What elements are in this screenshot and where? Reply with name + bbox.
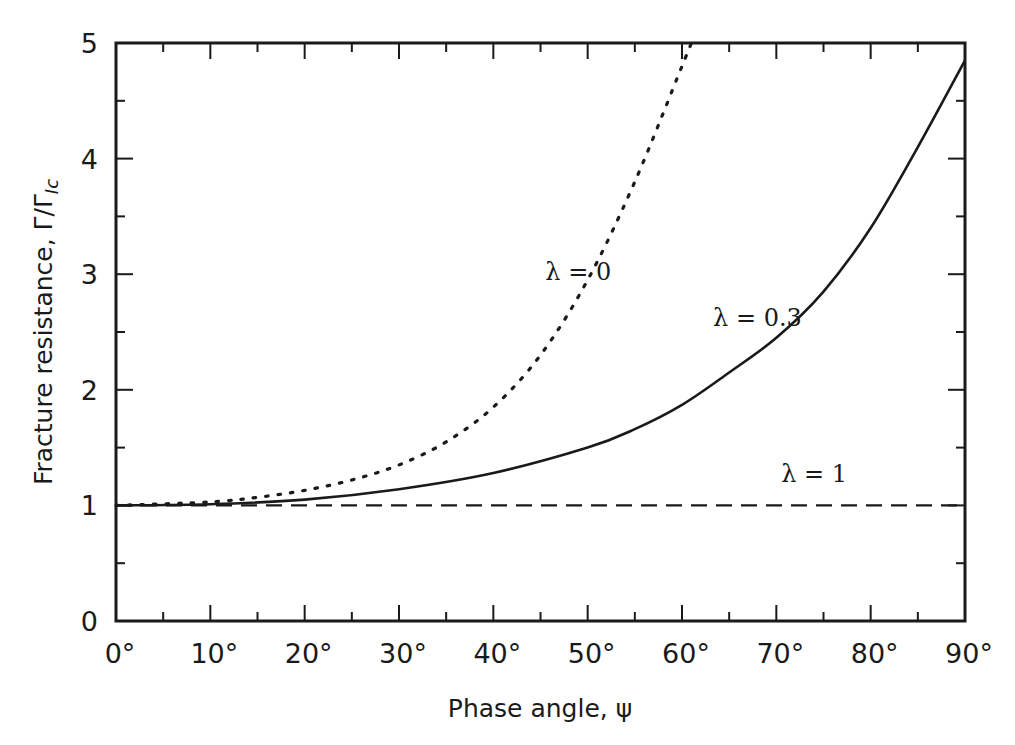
x-tick-label: 60°	[662, 638, 710, 669]
x-axis-title: Phase angle, ψ	[448, 694, 632, 723]
x-tick-label: 20°	[285, 638, 333, 669]
plot-frame	[116, 43, 965, 621]
y-tick-label: 4	[81, 144, 98, 175]
y-tick-label: 2	[81, 375, 98, 406]
curve-annotations: λ = 0λ = 0.3λ = 1	[545, 258, 847, 488]
curve-label: λ = 0.3	[713, 304, 802, 332]
x-tick-label: 80°	[851, 638, 899, 669]
y-tick-label: 0	[81, 606, 98, 637]
plot-border	[116, 43, 965, 621]
y-axis-title: Fracture resistance, Γ/ΓIc	[29, 179, 62, 485]
series-line-1	[116, 60, 965, 505]
x-tick-label: 90°	[945, 638, 993, 669]
y-axis-tick-labels: 012345	[81, 28, 98, 637]
data-series	[116, 43, 965, 505]
x-tick-label: 50°	[568, 638, 616, 669]
x-tick-label: 70°	[756, 638, 804, 669]
curve-label: λ = 1	[781, 460, 847, 488]
x-tick-label: 40°	[473, 638, 521, 669]
chart-canvas: 0°10°20°30°40°50°60°70°80°90° 012345 λ =…	[0, 0, 1015, 745]
y-tick-label: 3	[81, 259, 98, 290]
x-axis-ticks	[116, 43, 965, 621]
y-axis-ticks	[116, 43, 965, 621]
curve-label: λ = 0	[545, 258, 611, 286]
x-tick-label: 10°	[190, 638, 238, 669]
y-tick-label: 5	[81, 28, 98, 59]
x-axis-tick-labels: 0°10°20°30°40°50°60°70°80°90°	[105, 638, 993, 669]
x-tick-label: 0°	[105, 638, 136, 669]
y-tick-label: 1	[81, 490, 98, 521]
x-tick-label: 30°	[379, 638, 427, 669]
